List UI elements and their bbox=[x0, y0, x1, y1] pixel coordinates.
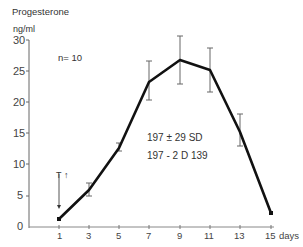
plot-area bbox=[0, 0, 303, 247]
progesterone-line bbox=[59, 60, 271, 219]
error-bars bbox=[86, 36, 243, 196]
